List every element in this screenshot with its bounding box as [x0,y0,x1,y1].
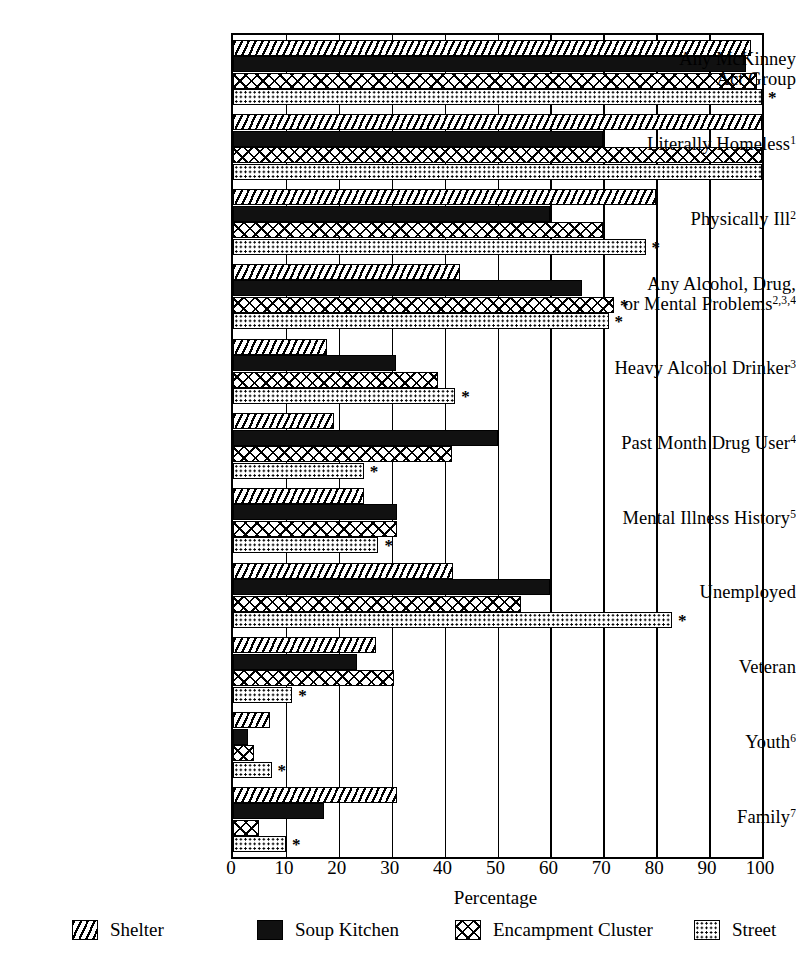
category-label-line1: Mental Illness History5 [574,508,796,528]
footnote-marker: 6 [790,732,796,744]
footnote-marker: 1 [790,134,796,146]
bar-soup-kitchen [233,729,248,745]
x-tick-0: 0 [211,857,251,879]
bar-shelter [233,712,270,728]
category-label-line1: Any McKinney [574,49,796,69]
category-label-line1: Literally Homeless1 [574,134,796,154]
bar-encampment-cluster [233,820,259,836]
legend-label: Soup Kitchen [295,918,399,942]
category-label-literally-homeless: Literally Homeless1 [574,134,796,154]
x-tick-80: 80 [634,857,674,879]
category-label-line1: Any Alcohol, Drug, [574,274,796,294]
category-label-any-alcohol-drug: Any Alcohol, Drug,or Mental Problems2,3,… [574,274,796,314]
x-tick-60: 60 [528,857,568,879]
bar-soup-kitchen [233,803,324,819]
category-label-youth: Youth6 [574,732,796,752]
category-label-line1: Unemployed [574,582,796,602]
bar-shelter [233,189,656,205]
footnote-marker: 2 [790,209,796,221]
significance-asterisk: * [292,837,301,853]
legend-label: Street [732,918,776,942]
category-label-physically-ill: Physically Ill2 [574,209,796,229]
bar-encampment-cluster [233,222,603,238]
bar-encampment-cluster [233,596,521,612]
cross-hatch-swatch [455,920,481,940]
category-label-veteran: Veteran [574,657,796,677]
category-label-mental-illness-history: Mental Illness History5 [574,508,796,528]
bar-shelter [233,488,364,504]
category-label-line1: Heavy Alcohol Drinker3 [574,358,796,378]
bar-street [233,612,672,628]
significance-asterisk: * [298,688,307,704]
significance-asterisk: * [278,763,287,779]
category-label-unemployed: Unemployed [574,582,796,602]
footnote-marker: 4 [790,433,796,445]
category-label-family: Family7 [574,807,796,827]
x-tick-20: 20 [317,857,357,879]
category-label-line1: Past Month Drug User4 [574,433,796,453]
bar-soup-kitchen [233,504,397,520]
bar-soup-kitchen [233,206,550,222]
bar-soup-kitchen [233,654,357,670]
category-label-line1: Veteran [574,657,796,677]
significance-asterisk: * [652,240,661,256]
bar-encampment-cluster [233,446,452,462]
legend-label: Encampment Cluster [493,918,653,942]
bar-soup-kitchen [233,430,498,446]
x-tick-90: 90 [687,857,727,879]
category-label-any-mckinney: Any McKinneyAct Group [574,49,796,89]
bar-street [233,537,378,553]
bar-shelter [233,339,327,355]
x-tick-30: 30 [370,857,410,879]
bar-shelter [233,637,376,653]
bar-shelter [233,413,334,429]
footnote-marker: 5 [790,508,796,520]
significance-asterisk: * [678,613,687,629]
bar-street [233,313,609,329]
bar-street [233,89,762,105]
x-tick-100: 100 [740,857,780,879]
bar-soup-kitchen [233,131,603,147]
category-label-line2: Act Group [574,69,796,89]
significance-asterisk: * [370,464,379,480]
footnote-marker: 3 [790,358,796,370]
category-label-line2: or Mental Problems2,3,4 [574,294,796,314]
dotted-swatch [694,920,720,940]
chart-legend: ShelterSoup KitchenEncampment ClusterStr… [72,918,752,952]
bar-soup-kitchen [233,280,582,296]
bar-street [233,463,364,479]
footnote-marker: 7 [790,807,796,819]
category-label-line1: Family7 [574,807,796,827]
significance-asterisk: * [384,538,393,554]
significance-asterisk: * [615,314,624,330]
bar-encampment-cluster [233,297,614,313]
footnote-marker: 2,3,4 [773,294,796,306]
bar-soup-kitchen [233,355,396,371]
category-label-heavy-alcohol-drinker: Heavy Alcohol Drinker3 [574,358,796,378]
bar-street [233,239,646,255]
bar-street [233,164,762,180]
bar-street [233,762,272,778]
category-label-line1: Physically Ill2 [574,209,796,229]
bar-soup-kitchen [233,579,550,595]
bar-shelter [233,787,397,803]
bar-encampment-cluster [233,521,397,537]
bar-street [233,836,286,852]
diagonal-hatch-swatch [72,920,98,940]
significance-asterisk: * [768,90,777,106]
bar-shelter [233,264,460,280]
significance-asterisk: * [461,389,470,405]
bar-street [233,388,455,404]
bar-street [233,687,292,703]
x-tick-50: 50 [476,857,516,879]
category-label-past-month-drug-user: Past Month Drug User4 [574,433,796,453]
bar-encampment-cluster [233,372,438,388]
x-axis-title: Percentage [231,887,760,909]
category-label-line1: Youth6 [574,732,796,752]
bar-encampment-cluster [233,745,254,761]
solid-black-swatch [257,920,283,940]
legend-label: Shelter [110,918,164,942]
x-tick-10: 10 [264,857,304,879]
bar-shelter [233,563,453,579]
bar-encampment-cluster [233,670,394,686]
